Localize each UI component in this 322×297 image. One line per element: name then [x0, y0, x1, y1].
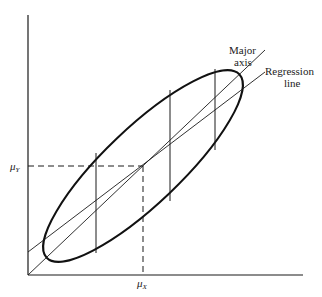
major-axis-label-line1: Major	[229, 44, 256, 56]
mu-x-label: μX	[136, 277, 148, 291]
regression-line	[28, 72, 265, 252]
regression-line-label-line2: line	[284, 77, 301, 89]
mu-y-label: μY	[9, 160, 21, 174]
ellipse-diagram: Major axis Regression line μY μX	[0, 0, 322, 297]
major-axis-label-line2: axis	[234, 56, 252, 68]
regression-line-label-line1: Regression	[265, 65, 314, 77]
